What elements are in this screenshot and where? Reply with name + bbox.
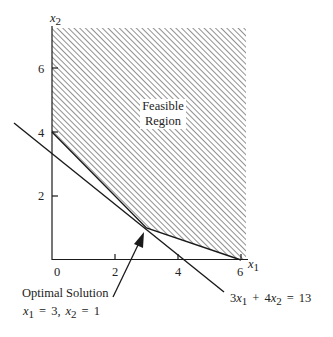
x-axis-title: x1: [247, 257, 259, 273]
feasible-region: [52, 28, 246, 260]
objective-line-label: 3x1+4x2=13: [230, 291, 311, 307]
lp-diagram: Feasible Region 2 4 6 0 2 4 6 x2 x1 Opti…: [0, 0, 333, 337]
region-label-line1: Feasible: [142, 99, 184, 113]
arrow-head-icon: [134, 232, 144, 248]
y-tick-label-2: 2: [38, 189, 44, 203]
y-axis-title: x2: [49, 11, 61, 27]
x-tick-label-6: 6: [237, 265, 243, 279]
x-tick-label-2: 2: [112, 265, 118, 279]
y-tick-label-6: 6: [38, 62, 44, 76]
y-tick-label-4: 4: [38, 126, 45, 140]
x-tick-label-0: 0: [54, 265, 60, 279]
region-label-line2: Region: [145, 114, 182, 128]
x-tick-label-4: 4: [175, 265, 182, 279]
optimal-values: x1=3,x2=1: [22, 304, 100, 320]
optimal-title: Optimal Solution: [22, 286, 109, 300]
